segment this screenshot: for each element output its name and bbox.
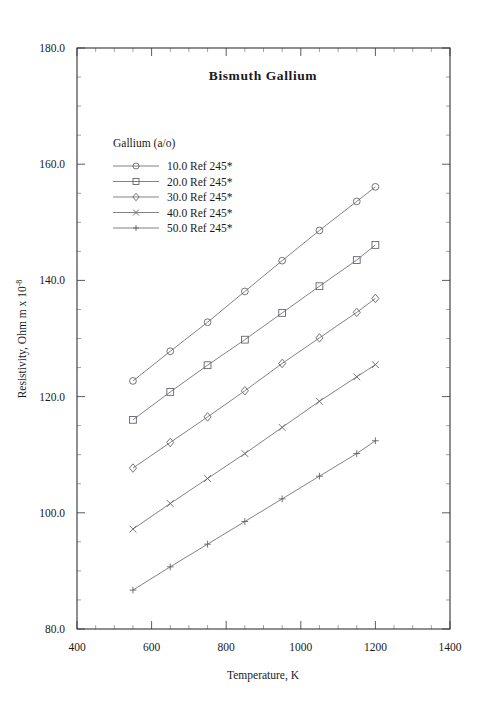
x-tick-label: 600 bbox=[143, 641, 161, 653]
y-tick-label: 180.0 bbox=[39, 42, 65, 54]
chart-title: Bismuth Gallium bbox=[209, 68, 318, 83]
legend-label: 20.0 Ref 245* bbox=[167, 176, 233, 188]
y-tick-label: 140.0 bbox=[39, 274, 65, 286]
x-tick-label: 1400 bbox=[439, 641, 462, 653]
legend-label: 40.0 Ref 245* bbox=[167, 207, 233, 219]
x-tick-label: 400 bbox=[68, 641, 86, 653]
x-axis-title: Temperature, K bbox=[227, 669, 300, 682]
y-axis-title-exponent: -8 bbox=[15, 280, 24, 287]
legend-title: Gallium (a/o) bbox=[113, 137, 175, 150]
y-tick-label: 100.0 bbox=[39, 507, 65, 519]
x-tick-label: 800 bbox=[218, 641, 236, 653]
chart-background bbox=[0, 0, 486, 708]
chart-figure: 400600800100012001400 80.0100.0120.0140.… bbox=[0, 0, 486, 708]
resistivity-vs-temperature-chart: 400600800100012001400 80.0100.0120.0140.… bbox=[0, 0, 486, 708]
y-axis-title: Resistivity, Ohm m x 10-8 bbox=[15, 280, 29, 399]
x-tick-label: 1200 bbox=[364, 641, 387, 653]
y-tick-label: 160.0 bbox=[39, 158, 65, 170]
y-axis-title-group: Resistivity, Ohm m x 10-8 bbox=[15, 280, 29, 399]
y-tick-label: 120.0 bbox=[39, 391, 65, 403]
y-tick-label: 80.0 bbox=[45, 623, 65, 635]
x-tick-label: 1000 bbox=[289, 641, 312, 653]
legend-label: 50.0 Ref 245* bbox=[167, 222, 233, 234]
y-axis-title-main: Resistivity, Ohm m x 10 bbox=[16, 286, 29, 398]
legend-label: 30.0 Ref 245* bbox=[167, 191, 233, 203]
legend-label: 10.0 Ref 245* bbox=[167, 160, 233, 172]
